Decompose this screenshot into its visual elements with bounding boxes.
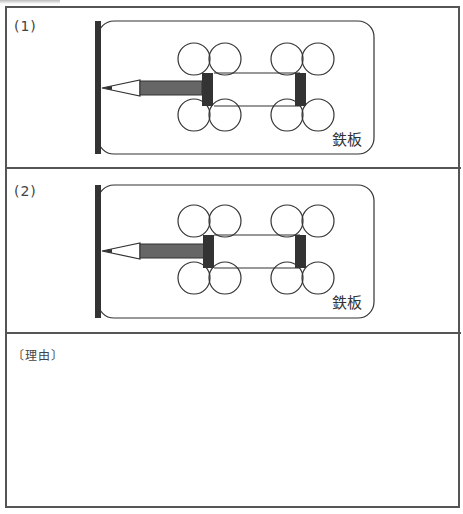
panel-1-diagram: 鉄板 [92,18,382,160]
magnet-bar-icon [95,185,101,318]
panel-divider-2 [5,332,461,334]
pencil-body-icon [140,81,202,95]
plate-label: 鉄板 [332,294,362,312]
cropped-heading-fragment [0,0,60,4]
panel-1-label: (1) [14,18,37,34]
panel-2-diagram: 鉄板 [92,182,382,324]
magnet-bar-icon [95,21,101,154]
pencil-body-icon [140,244,204,258]
panel-2-label: (2) [14,183,37,199]
panel-divider-1 [5,167,461,169]
plate-label: 鉄板 [332,131,362,149]
reason-answer-area[interactable] [12,366,452,502]
reason-label: 〔理由〕 [12,346,64,363]
